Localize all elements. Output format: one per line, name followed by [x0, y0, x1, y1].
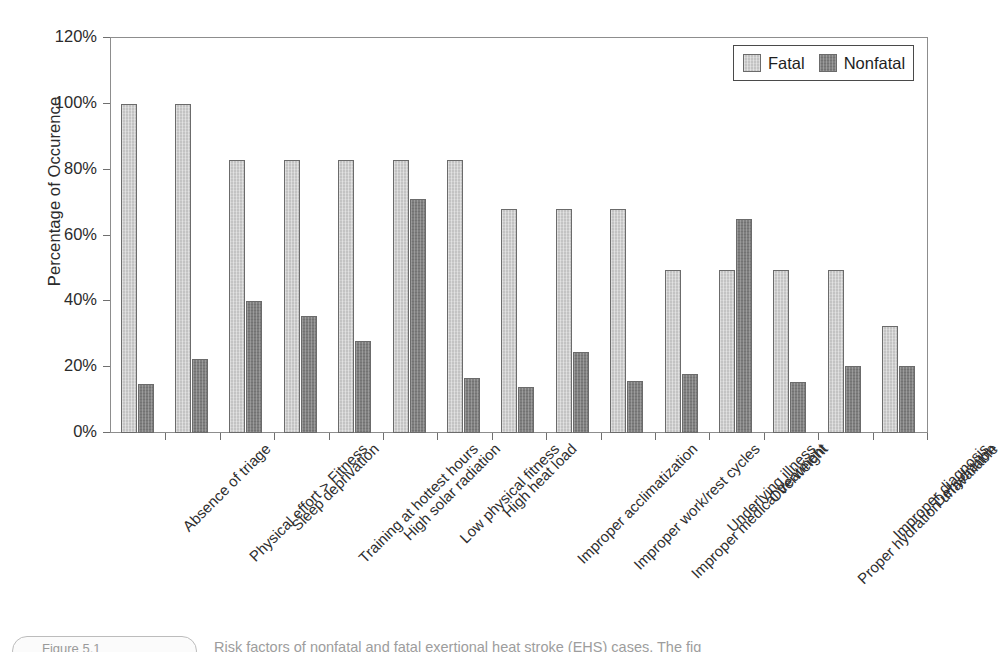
legend-label-fatal: Fatal: [768, 54, 805, 73]
dark-gray-swatch-icon: [819, 54, 837, 72]
x-axis-label: Absence of triage: [179, 440, 274, 535]
figure-caption-text: Risk factors of nonfatal and fatal exert…: [214, 639, 701, 652]
light-gray-swatch-icon: [743, 54, 761, 72]
x-axis-label: Dehydration: [930, 440, 999, 509]
figure-caption: Figure 5.1 Risk factors of nonfatal and …: [0, 636, 952, 652]
chart-legend: Fatal Nonfatal: [733, 45, 914, 81]
legend-entry-fatal[interactable]: Fatal: [743, 54, 805, 73]
legend-label-nonfatal: Nonfatal: [844, 54, 905, 73]
legend-entry-nonfatal[interactable]: Nonfatal: [819, 54, 905, 73]
figure-caption-badge: [12, 636, 197, 652]
figure-caption-number: Figure 5.1: [42, 641, 101, 652]
x-axis-label: Sleep deprivation: [287, 440, 381, 534]
x-axis-label: Improper acclimatization: [573, 440, 700, 567]
